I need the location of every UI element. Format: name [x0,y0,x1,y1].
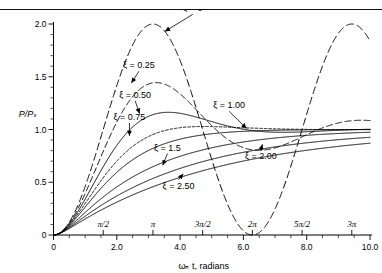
x-tick-label-pi: 5π/2 [294,219,311,229]
x-tick-label-pi: π/2 [97,219,109,229]
x-tick-label-pi: 3π/2 [194,219,212,229]
curve-zeta-0.5 [54,112,371,235]
x-tick-label-pi: 2π [248,219,258,229]
curve-label-zeta-2: ξ = 2.00 [245,151,277,161]
chart-curves [54,24,371,235]
x-tick-label-numeric: 4.0 [174,242,186,252]
figure-root: ξ = 0ξ = 0.25ξ = 0.50ξ = 0.75ξ = 1.00ξ =… [0,0,382,273]
chart-plot-area: ξ = 0ξ = 0.25ξ = 0.50ξ = 0.75ξ = 1.00ξ =… [0,10,382,273]
x-tick-label-pi: 3π [346,219,357,229]
y-tick-label: 0 [42,230,47,240]
x-tick-label-pi: π [151,219,156,229]
curve-label-zeta-0.75: ξ = 0.75 [114,112,146,122]
y-tick-label: 1.5 [35,72,47,82]
curve-label-zeta-2.5: ξ = 2.50 [163,181,195,191]
y-tick-label: 1.0 [35,125,47,135]
curve-label-zeta-0.25: ξ = 0.25 [123,60,155,70]
x-tick-label-numeric: 0 [51,242,56,252]
curve-label-arrowhead [131,77,136,83]
y-axis-label: P/Pₛ [19,109,38,119]
curve-label-zeta-0.5: ξ = 0.50 [119,90,151,100]
chart-axis-labels: 00.51.01.52.002.04.06.08.010.0π/2π3π/22π… [19,19,379,271]
x-tick-label-numeric: 6.0 [237,242,249,252]
curve-label-arrowhead [127,131,132,136]
x-tick-label-numeric: 8.0 [301,242,313,252]
x-axis-label: ωₙ t, radians [178,261,229,271]
curve-label-arrowhead [165,27,171,32]
x-tick-label-numeric: 10.0 [362,242,379,252]
x-tick-label-numeric: 2.0 [111,242,123,252]
curve-label-zeta-1: ξ = 1.00 [213,100,245,110]
y-tick-label: 2.0 [35,19,47,29]
curve-label-zeta-1.5: ξ = 1.5 [154,143,181,153]
y-tick-label: 0.5 [35,177,47,187]
curve-label-zeta-0: ξ = 0 [183,10,202,13]
figure-caption-partial [0,0,382,9]
step-response-chart: ξ = 0ξ = 0.25ξ = 0.50ξ = 0.75ξ = 1.00ξ =… [0,10,382,273]
